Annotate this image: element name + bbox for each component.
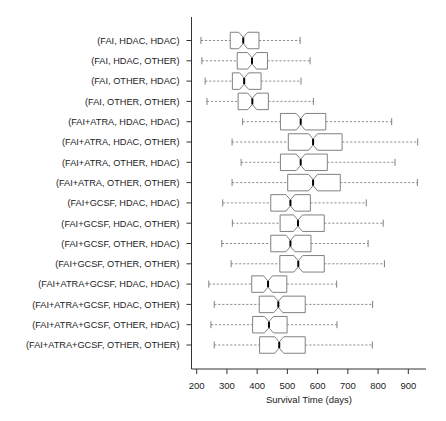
box-iqr bbox=[260, 337, 306, 354]
box-group bbox=[205, 73, 301, 90]
y-category-label: (FAI+ATRA+GCSF, OTHER, HDAC) bbox=[32, 320, 179, 330]
x-tick-label: 300 bbox=[219, 380, 235, 391]
box-group bbox=[232, 215, 383, 232]
y-category-label: (FAI+GCSF, HDAC, HDAC) bbox=[67, 198, 179, 208]
y-category-label: (FAI+GCSF, HDAC, OTHER) bbox=[61, 219, 179, 229]
y-category-label: (FAI+ATRA+GCSF, OTHER, OTHER) bbox=[26, 340, 179, 350]
y-category-label: (FAI+ATRA, OTHER, OTHER) bbox=[56, 178, 180, 188]
box-iqr bbox=[288, 134, 342, 151]
plot-area bbox=[201, 32, 418, 353]
y-category-label: (FAI+GCSF, OTHER, HDAC) bbox=[61, 239, 179, 249]
x-tick-label: 600 bbox=[310, 380, 326, 391]
y-category-label: (FAI+ATRA+GCSF, HDAC, HDAC) bbox=[38, 279, 179, 289]
x-tick-label: 900 bbox=[400, 380, 416, 391]
x-axis-title: Survival Time (days) bbox=[266, 394, 352, 405]
box-iqr bbox=[232, 73, 261, 90]
box-group bbox=[201, 32, 300, 49]
y-category-label: (FAI, OTHER, HDAC) bbox=[91, 76, 179, 86]
boxplot-chart: 200300400500600700800900(FAI, HDAC, HDAC… bbox=[0, 0, 446, 421]
box-group bbox=[214, 296, 372, 313]
box-group bbox=[232, 174, 417, 191]
y-category-label: (FAI, OTHER, OTHER) bbox=[85, 97, 179, 107]
box-iqr bbox=[280, 154, 327, 171]
box-group bbox=[231, 256, 384, 272]
box-group bbox=[243, 113, 392, 130]
box-iqr bbox=[252, 276, 287, 293]
y-category-label: (FAI, HDAC, OTHER) bbox=[91, 56, 179, 66]
box-group bbox=[211, 316, 337, 333]
y-category-label: (FAI+GCSF, OTHER, OTHER) bbox=[55, 259, 179, 269]
box-group bbox=[209, 276, 337, 293]
box-iqr bbox=[280, 113, 325, 130]
y-category-label: (FAI+ATRA, OTHER, HDAC) bbox=[62, 158, 180, 168]
y-category-label: (FAI+ATRA, HDAC, HDAC) bbox=[68, 117, 179, 127]
box-group bbox=[202, 53, 310, 70]
box-group bbox=[207, 93, 313, 110]
box-group bbox=[241, 154, 395, 171]
x-tick-label: 800 bbox=[370, 380, 386, 391]
box-iqr bbox=[230, 32, 259, 49]
x-tick-label: 200 bbox=[189, 380, 205, 391]
x-tick-label: 400 bbox=[249, 380, 265, 391]
box-iqr bbox=[280, 215, 324, 232]
x-tick-label: 700 bbox=[340, 380, 356, 391]
y-category-label: (FAI+ATRA+GCSF, HDAC, OTHER) bbox=[32, 300, 179, 310]
box-iqr bbox=[259, 296, 305, 313]
box-group bbox=[214, 337, 372, 354]
y-category-label: (FAI, HDAC, HDAC) bbox=[97, 36, 179, 46]
box-iqr bbox=[280, 256, 324, 272]
x-tick-label: 500 bbox=[279, 380, 295, 391]
box-group bbox=[232, 134, 418, 151]
box-group bbox=[223, 195, 367, 212]
box-group bbox=[222, 235, 368, 252]
y-category-label: (FAI+ATRA, HDAC, OTHER) bbox=[62, 137, 180, 147]
